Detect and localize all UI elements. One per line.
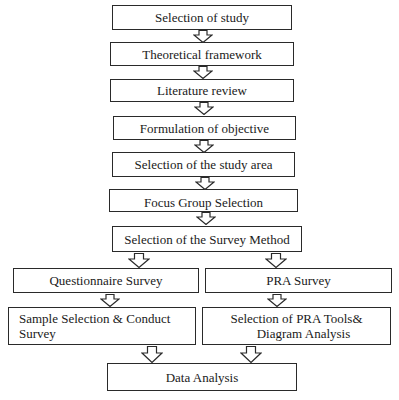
step-selection-of-study-area: Selection of the study area	[112, 152, 295, 177]
arrow-down-icon	[196, 212, 216, 225]
step-label: Formulation of objective	[140, 121, 269, 136]
step-label: Literature review	[157, 83, 247, 98]
step-label-line2: Diagram Analysis	[243, 326, 351, 341]
arrow-down-icon	[267, 294, 287, 307]
step-literature-review: Literature review	[110, 79, 294, 102]
step-label: Selection of the study area	[135, 157, 273, 172]
arrow-down-icon	[193, 30, 213, 43]
arrow-down-icon	[194, 140, 214, 153]
step-focus-group-selection: Focus Group Selection	[109, 189, 298, 212]
step-label: Data Analysis	[166, 370, 239, 385]
step-formulation-of-objective: Formulation of objective	[113, 116, 296, 140]
arrow-down-icon	[193, 66, 213, 79]
step-label: Selection of study	[155, 10, 249, 25]
step-data-analysis: Data Analysis	[107, 363, 297, 391]
step-label-line2: Survey	[19, 326, 56, 341]
step-questionnaire-survey: Questionnaire Survey	[13, 268, 199, 293]
arrow-down-icon	[194, 102, 214, 115]
step-label: Focus Group Selection	[144, 195, 263, 210]
step-sample-selection: Sample Selection & Conduct Survey	[8, 307, 196, 345]
arrow-down-icon	[128, 253, 150, 268]
step-label: PRA Survey	[266, 273, 331, 288]
arrow-down-icon	[100, 294, 120, 307]
step-selection-of-study: Selection of study	[112, 5, 292, 30]
step-pra-survey: PRA Survey	[205, 268, 392, 293]
arrow-down-icon	[240, 346, 262, 363]
step-theoretical-framework: Theoretical framework	[110, 42, 294, 66]
step-selection-of-survey-method: Selection of the Survey Method	[112, 226, 302, 252]
step-label: Selection of the Survey Method	[124, 232, 289, 247]
step-label: Questionnaire Survey	[49, 273, 162, 288]
arrow-down-icon	[265, 253, 287, 268]
arrow-down-icon	[195, 177, 215, 190]
arrow-down-icon	[141, 346, 163, 363]
step-label-line1: Selection of PRA Tools&	[230, 311, 362, 326]
step-label: Theoretical framework	[142, 47, 261, 62]
step-label-line1: Sample Selection & Conduct	[19, 311, 170, 326]
step-pra-tools: Selection of PRA Tools& Diagram Analysis	[202, 307, 391, 345]
